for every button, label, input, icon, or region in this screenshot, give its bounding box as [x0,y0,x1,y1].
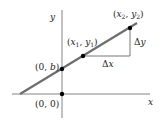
label-y-intercept: (0, b) [35,62,59,72]
delta-y-label: Δy [134,37,147,47]
x-axis-label: x [148,97,153,107]
point-origin [60,92,64,96]
label-x1-y1: (x1, y1) [67,37,98,48]
y-axis-label: y [49,12,56,22]
label-x2-y2: (x2, y2) [113,9,144,20]
slope-diagram: y x (0, 0) (0, b) (x1, y1) (x2, y2) Δx Δ… [0,0,163,125]
delta-x-label: Δx [102,59,114,69]
point-x1-y1 [81,54,85,58]
point-x2-y2 [128,26,132,30]
label-origin: (0, 0) [35,99,59,109]
point-y-intercept [60,67,64,71]
line [20,23,137,94]
